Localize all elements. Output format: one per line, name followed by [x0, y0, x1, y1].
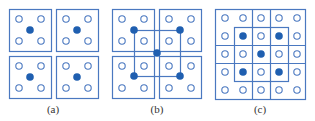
hollow-point-icon: [141, 38, 147, 44]
hollow-point-icon: [16, 38, 22, 44]
hollow-point-icon: [222, 15, 228, 21]
hollow-point-icon: [188, 85, 194, 91]
hollow-point-icon: [166, 85, 172, 91]
hollow-point-icon: [240, 87, 246, 93]
filled-point-icon: [73, 26, 81, 34]
hollow-point-icon: [38, 16, 44, 22]
hollow-point-icon: [63, 38, 69, 44]
hollow-point-icon: [188, 16, 194, 22]
filled-point-icon: [153, 49, 161, 57]
hollow-point-icon: [166, 63, 172, 69]
hollow-point-icon: [276, 87, 282, 93]
hollow-point-icon: [222, 69, 228, 75]
filled-point-icon: [257, 50, 265, 58]
filled-point-icon: [176, 26, 184, 34]
hollow-point-icon: [294, 33, 300, 39]
hollow-point-icon: [119, 63, 125, 69]
hollow-point-icon: [240, 15, 246, 21]
hollow-point-icon: [166, 16, 172, 22]
hollow-point-icon: [294, 51, 300, 57]
hollow-point-icon: [258, 33, 264, 39]
sampling-grid-diagram: (a) (b) (c): [0, 0, 315, 121]
panel-c-label: (c): [254, 103, 267, 116]
filled-point-icon: [239, 32, 247, 40]
hollow-point-icon: [63, 63, 69, 69]
hollow-point-icon: [38, 63, 44, 69]
hollow-point-icon: [188, 38, 194, 44]
hollow-point-icon: [222, 33, 228, 39]
hollow-point-icon: [141, 85, 147, 91]
filled-point-icon: [130, 26, 138, 34]
panel-c: [216, 10, 306, 100]
hollow-point-icon: [294, 15, 300, 21]
hollow-point-icon: [276, 15, 282, 21]
filled-point-icon: [130, 72, 138, 80]
filled-point-icon: [26, 73, 34, 81]
filled-point-icon: [275, 68, 283, 76]
panel-b-label: (b): [151, 103, 164, 116]
hollow-point-icon: [141, 63, 147, 69]
hollow-point-icon: [258, 87, 264, 93]
hollow-point-icon: [63, 16, 69, 22]
hollow-point-icon: [85, 85, 91, 91]
hollow-point-icon: [258, 69, 264, 75]
hollow-point-icon: [85, 16, 91, 22]
hollow-point-icon: [16, 63, 22, 69]
hollow-point-icon: [119, 38, 125, 44]
hollow-point-icon: [188, 63, 194, 69]
filled-point-icon: [26, 26, 34, 34]
hollow-point-icon: [16, 85, 22, 91]
panel-a-label: (a): [47, 103, 60, 116]
hollow-point-icon: [222, 51, 228, 57]
hollow-point-icon: [166, 38, 172, 44]
hollow-point-icon: [63, 85, 69, 91]
hollow-point-icon: [222, 87, 228, 93]
filled-point-icon: [176, 72, 184, 80]
filled-point-icon: [275, 32, 283, 40]
hollow-point-icon: [85, 63, 91, 69]
panel-a: [10, 10, 99, 99]
hollow-point-icon: [38, 85, 44, 91]
hollow-point-icon: [119, 85, 125, 91]
filled-point-icon: [239, 68, 247, 76]
hollow-point-icon: [16, 16, 22, 22]
hollow-point-icon: [119, 16, 125, 22]
hollow-point-icon: [294, 69, 300, 75]
hollow-point-icon: [258, 15, 264, 21]
hollow-point-icon: [38, 38, 44, 44]
hollow-point-icon: [276, 51, 282, 57]
filled-point-icon: [73, 73, 81, 81]
hollow-point-icon: [240, 51, 246, 57]
hollow-point-icon: [85, 38, 91, 44]
hollow-point-icon: [294, 87, 300, 93]
panel-b: [113, 10, 202, 99]
hollow-point-icon: [141, 16, 147, 22]
